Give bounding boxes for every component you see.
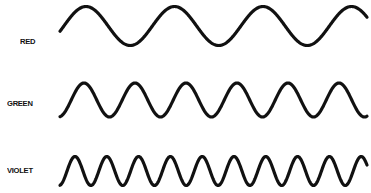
waves-svg bbox=[0, 0, 371, 193]
wave-red bbox=[60, 7, 367, 46]
wave-violet bbox=[60, 157, 367, 186]
wave-green bbox=[60, 83, 367, 117]
